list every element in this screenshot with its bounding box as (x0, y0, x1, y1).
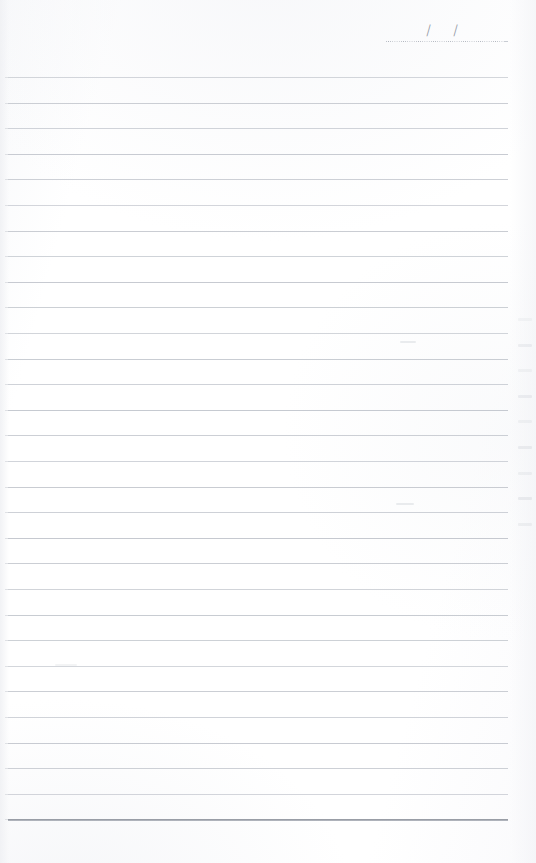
ruled-line (8, 307, 508, 308)
bleed-through-mark (518, 369, 532, 372)
bleed-through-mark (518, 420, 532, 423)
ruled-line-left-cap (5, 179, 8, 180)
ruled-line-left-cap (5, 615, 8, 616)
ruled-line-left-cap (5, 359, 8, 360)
ruled-line-left-cap (5, 563, 8, 564)
ruled-line-left-cap (5, 589, 8, 590)
ruled-line (8, 359, 508, 360)
ruled-line (8, 743, 508, 744)
ruled-line-left-cap (5, 640, 8, 641)
bleed-through-mark (518, 472, 532, 475)
ruled-line (8, 77, 508, 78)
ruled-line-left-cap (5, 77, 8, 78)
ruled-line (8, 461, 508, 462)
ruled-line-left-cap (5, 333, 8, 334)
ruled-line-left-cap (5, 794, 8, 795)
ruled-line-left-cap (5, 743, 8, 744)
bleed-through-mark (518, 446, 532, 449)
ruled-line (8, 717, 508, 718)
ruled-line-left-cap (5, 256, 8, 257)
ruled-line (8, 794, 508, 795)
ruled-line (8, 384, 508, 385)
ruled-line (8, 128, 508, 129)
ruled-line (8, 256, 508, 257)
ruled-line-left-cap (5, 154, 8, 155)
ruled-line-left-cap (5, 512, 8, 513)
ruled-line-left-cap (5, 666, 8, 667)
ruled-line-left-cap (5, 691, 8, 692)
ruled-line-left-cap (5, 384, 8, 385)
ruled-line-left-cap (5, 538, 8, 539)
ruled-line-left-cap (5, 819, 8, 820)
notebook-page: / / (0, 0, 536, 863)
ruled-line (8, 103, 508, 104)
ruled-line-left-cap (5, 128, 8, 129)
ruled-line-left-cap (5, 231, 8, 232)
bleed-through-mark (518, 318, 532, 321)
ruled-line (8, 615, 508, 616)
ruled-line (8, 282, 508, 283)
ruled-line (8, 231, 508, 232)
ruled-line-left-cap (5, 461, 8, 462)
bleed-through-mark (518, 395, 532, 398)
ruled-line (8, 333, 508, 334)
ruled-line (8, 589, 508, 590)
ruled-line (8, 691, 508, 692)
ruled-line (8, 538, 508, 539)
ruled-line-left-cap (5, 282, 8, 283)
bleed-through-mark (518, 344, 532, 347)
ruled-lines (0, 0, 536, 863)
bleed-through-mark (518, 523, 532, 526)
ruled-line (8, 205, 508, 206)
ruled-line-left-cap (5, 205, 8, 206)
ruled-line (8, 410, 508, 411)
ruled-line (8, 154, 508, 155)
ruled-line (8, 487, 508, 488)
ruled-line-left-cap (5, 487, 8, 488)
ruled-line-left-cap (5, 307, 8, 308)
ruled-line (8, 666, 508, 667)
ruled-line (8, 435, 508, 436)
ruled-line-left-cap (5, 103, 8, 104)
ruled-line (8, 512, 508, 513)
ruled-line (8, 640, 508, 641)
ruled-line-left-cap (5, 768, 8, 769)
ruled-line (8, 179, 508, 180)
ruled-line-left-cap (5, 435, 8, 436)
ruled-line (8, 768, 508, 769)
ruled-line (8, 563, 508, 564)
bleed-through-mark (518, 497, 532, 500)
ruled-line-left-cap (5, 410, 8, 411)
ruled-line-left-cap (5, 717, 8, 718)
ruled-line-bottom-border (8, 819, 508, 821)
